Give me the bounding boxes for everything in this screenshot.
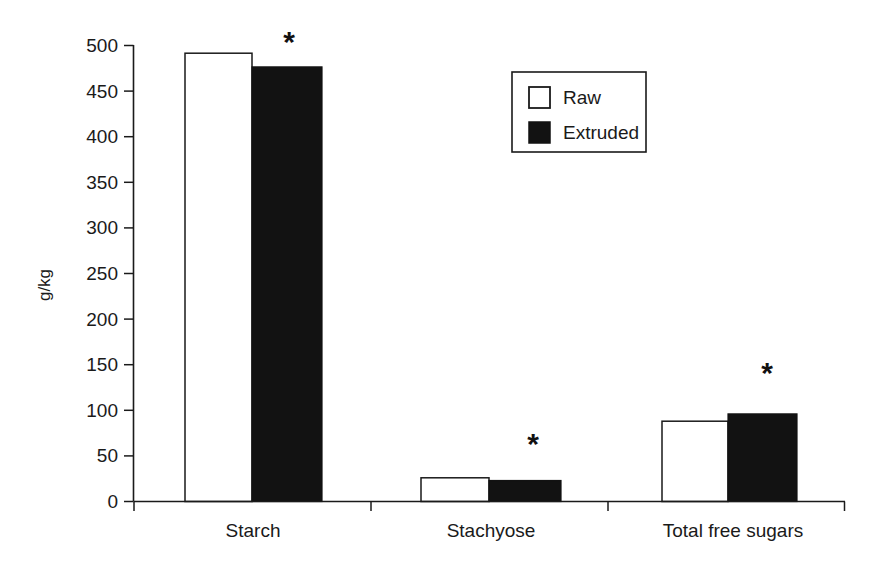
x-category-label-total-free-sugars: Total free sugars [663, 520, 803, 541]
bar-extruded-total-free-sugars [728, 414, 797, 502]
y-tick-label: 350 [86, 172, 118, 193]
x-category-label-stachyose: Stachyose [447, 520, 536, 541]
bar-raw-total-free-sugars [662, 421, 728, 501]
bar-extruded-starch [252, 67, 322, 502]
chart-legend: Raw Extruded [512, 72, 646, 152]
y-tick-label: 50 [97, 445, 118, 466]
legend-entry-raw: Raw [529, 87, 601, 108]
bar-extruded-stachyose [489, 481, 561, 502]
y-axis-label-text: g/kg [35, 269, 54, 301]
significance-star-total-free-sugars: * [761, 356, 773, 389]
bar-raw-starch [185, 53, 252, 501]
bar-group-stachyose: * [421, 427, 561, 502]
significance-star-starch: * [283, 25, 295, 58]
y-tick-label: 300 [86, 217, 118, 238]
y-tick-label: 250 [86, 263, 118, 284]
y-tick-group: 500 450 400 350 300 250 200 150 100 50 0 [86, 35, 133, 512]
x-category-label-starch: Starch [226, 520, 281, 541]
y-axis-label: g/kg [35, 269, 54, 301]
x-category-labels: Starch Stachyose Total free sugars [226, 520, 804, 541]
y-tick-label: 450 [86, 81, 118, 102]
significance-star-stachyose: * [527, 427, 539, 460]
bar-raw-stachyose [421, 478, 489, 502]
y-tick-label: 0 [107, 491, 118, 512]
legend-entry-extruded: Extruded [529, 122, 639, 143]
bar-chart-canvas: g/kg 500 450 400 350 300 250 200 150 100 [0, 0, 883, 570]
filled-square-swatch-icon [529, 122, 550, 143]
y-tick-label: 150 [86, 354, 118, 375]
bar-group-starch: * [185, 25, 322, 502]
chart-figure: g/kg 500 450 400 350 300 250 200 150 100 [0, 0, 883, 570]
y-tick-label: 200 [86, 309, 118, 330]
y-tick-label: 100 [86, 400, 118, 421]
y-tick-label: 400 [86, 126, 118, 147]
legend-label-raw: Raw [563, 87, 601, 108]
open-square-swatch-icon [529, 87, 550, 108]
y-tick-label: 500 [86, 35, 118, 56]
legend-label-extruded: Extruded [563, 122, 639, 143]
x-tick-group [134, 502, 845, 512]
bar-group-total-free-sugars: * [662, 356, 797, 502]
